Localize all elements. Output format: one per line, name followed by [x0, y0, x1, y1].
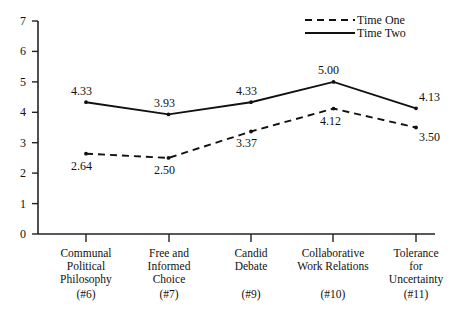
x-axis-ticks: [86, 234, 416, 242]
y-tick-label-2: 2: [10, 167, 26, 179]
y-tick-label-0: 0: [10, 228, 26, 240]
x-category-line-0-2: Philosophy: [60, 273, 112, 285]
x-category-line-1-1: Informed: [148, 260, 191, 272]
x-category-line-2-1: Debate: [235, 260, 268, 272]
x-category-line-3-0: Collaborative: [302, 247, 365, 259]
y-tick-label-5: 5: [10, 76, 26, 88]
series-points-time-one: [84, 107, 418, 160]
x-category-line-0-1: Political: [67, 260, 105, 272]
data-label-time-two-2: 4.33: [236, 85, 257, 97]
x-category-number-4: (#11): [361, 288, 462, 301]
data-label-time-one-4: 3.50: [419, 131, 440, 143]
x-category-line-4-2: Uncertainty: [389, 273, 443, 285]
data-label-time-one-1: 2.50: [154, 164, 175, 176]
y-tick-label-4: 4: [10, 106, 26, 118]
data-label-time-two-4: 4.13: [419, 91, 440, 103]
y-axis-ticks: [32, 21, 38, 234]
y-tick-label-7: 7: [10, 15, 26, 27]
y-tick-label-3: 3: [10, 137, 26, 149]
line-chart: 7 6 5 4 3 2 1 0 Time One Time Two 4.33 3…: [0, 0, 462, 320]
data-label-time-one-2: 3.37: [236, 137, 257, 149]
legend-label-time-one: Time One: [357, 14, 405, 26]
data-label-time-two-1: 3.93: [154, 97, 175, 109]
y-tick-label-6: 6: [10, 45, 26, 57]
data-label-time-two-3: 5.00: [318, 64, 339, 76]
x-category-line-1-2: Choice: [153, 273, 186, 285]
data-label-time-one-0: 2.64: [71, 160, 92, 172]
x-category-line-4-0: Tolerance: [393, 247, 438, 259]
data-label-time-one-3: 4.12: [320, 115, 341, 127]
x-category-line-0-0: Communal: [60, 247, 111, 259]
x-category-line-4-1: for: [409, 260, 422, 272]
y-tick-label-1: 1: [10, 198, 26, 210]
x-category-line-2-0: Candid: [234, 247, 267, 259]
x-category-label-4: Tolerance for Uncertainty (#11): [361, 247, 462, 301]
x-category-line-3-1: Work Relations: [297, 260, 369, 272]
legend-label-time-two: Time Two: [357, 27, 406, 39]
x-category-line-1-0: Free and: [149, 247, 189, 259]
data-label-time-two-0: 4.33: [71, 85, 92, 97]
